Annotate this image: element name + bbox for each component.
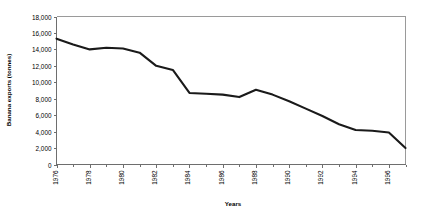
- y-tick-label: 10,000: [32, 79, 52, 86]
- x-tick-label: 1980: [118, 170, 125, 185]
- chart-background: [0, 0, 428, 215]
- x-tick-label: 1984: [184, 170, 191, 185]
- x-tick-label: 1986: [218, 170, 225, 185]
- y-tick-label: 0: [48, 162, 52, 169]
- y-tick-label: 8,000: [36, 96, 52, 103]
- y-tick-label: 4,000: [36, 129, 52, 136]
- x-tick-label: 1992: [317, 170, 324, 185]
- chart-container: 18,00016,00014,00012,00010,0008,0006,000…: [0, 0, 428, 215]
- x-axis-title: Years: [225, 200, 242, 207]
- y-tick-label: 14,000: [32, 46, 52, 53]
- y-axis-title: Banana exports (tonnes): [5, 54, 12, 127]
- x-tick-label: 1994: [351, 170, 358, 185]
- x-tick-label: 1976: [52, 170, 59, 185]
- banana-exports-line-chart: 18,00016,00014,00012,00010,0008,0006,000…: [0, 0, 428, 215]
- y-tick-label: 2,000: [36, 145, 52, 152]
- x-tick-label: 1978: [85, 170, 92, 185]
- x-tick-label: 1996: [384, 170, 391, 185]
- x-tick-label: 1988: [251, 170, 258, 185]
- x-tick-label: 1982: [151, 170, 158, 185]
- x-tick-label: 1990: [284, 170, 291, 185]
- y-tick-label: 18,000: [32, 14, 52, 21]
- y-tick-label: 6,000: [36, 112, 52, 119]
- y-tick-label: 12,000: [32, 63, 52, 70]
- y-tick-label: 16,000: [32, 30, 52, 37]
